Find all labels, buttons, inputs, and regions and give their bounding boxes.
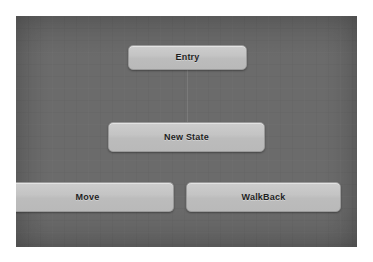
state-node-walkback[interactable]: WalkBack: [186, 182, 341, 212]
state-node-entry-label: Entry: [175, 53, 199, 62]
state-graph-canvas[interactable]: Entry New State Move WalkBack: [16, 16, 357, 247]
state-node-move-label: Move: [76, 193, 100, 202]
page-root: Entry New State Move WalkBack: [0, 0, 373, 262]
state-node-walkback-label: WalkBack: [242, 193, 286, 202]
state-node-entry[interactable]: Entry: [128, 45, 247, 70]
connector-entry-to-new-state: [187, 70, 188, 122]
state-node-new-state-label: New State: [164, 133, 209, 142]
state-node-move[interactable]: Move: [16, 182, 174, 212]
state-node-new-state[interactable]: New State: [108, 122, 265, 152]
